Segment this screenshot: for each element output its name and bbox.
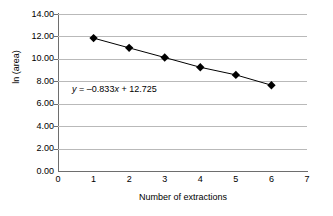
x-tick-label: 1 — [84, 174, 104, 184]
x-tick-label: 0 — [48, 174, 68, 184]
y-tick-label: 12.00 — [20, 32, 54, 41]
chart-figure: ln (area) 0.002.004.006.008.0010.0012.00… — [0, 0, 333, 216]
y-tick-label: 4.00 — [20, 122, 54, 131]
x-tick-label: 5 — [226, 174, 246, 184]
x-tick-label: 6 — [261, 174, 281, 184]
data-point-marker — [267, 81, 275, 89]
x-axis-title: Number of extractions — [58, 192, 308, 202]
x-tick-label: 2 — [119, 174, 139, 184]
data-point-marker — [196, 63, 204, 71]
x-tick-label: 7 — [297, 174, 317, 184]
data-point-marker — [125, 44, 133, 52]
x-tick-label: 3 — [155, 174, 175, 184]
data-point-marker — [161, 53, 169, 61]
series-line — [94, 38, 272, 85]
y-tick-label: 6.00 — [20, 99, 54, 108]
y-tick-label: 2.00 — [20, 144, 54, 153]
trendline-equation-annotation: y = –0.833x + 12.725 — [72, 84, 157, 94]
x-axis-tick-labels: 01234567 — [0, 174, 333, 188]
x-axis-line — [58, 171, 308, 172]
y-tick-label: 8.00 — [20, 77, 54, 86]
data-point-marker — [89, 34, 97, 42]
x-tick-label: 4 — [190, 174, 210, 184]
data-point-marker — [232, 71, 240, 79]
y-tick-label: 14.00 — [20, 10, 54, 19]
y-tick-label: 10.00 — [20, 54, 54, 63]
